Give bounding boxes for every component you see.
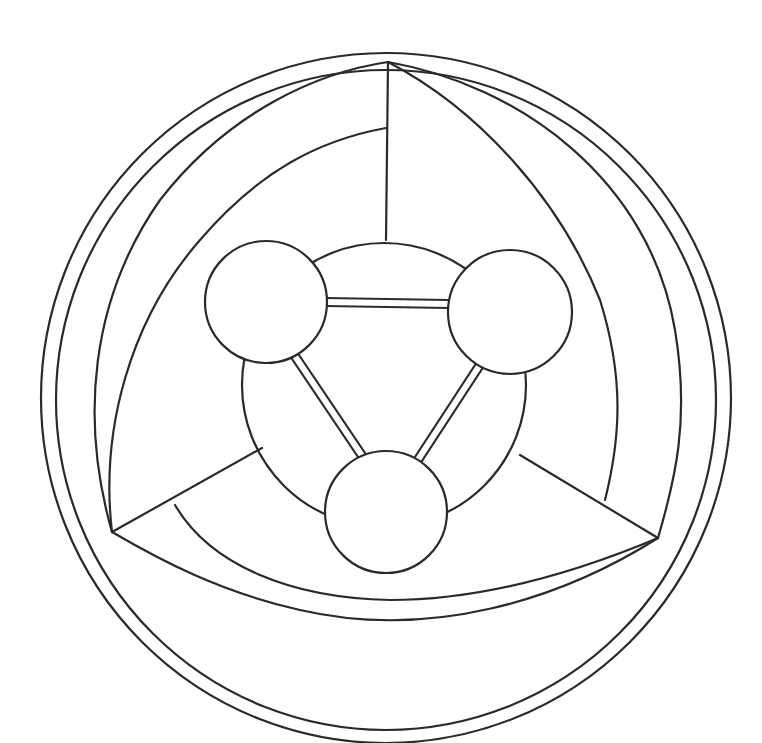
- drawing-canvas: [0, 0, 762, 743]
- node-bottom: [325, 451, 447, 573]
- node-right: [448, 250, 572, 374]
- node-left: [205, 241, 327, 363]
- swirl-molecule-drawing: [0, 0, 762, 743]
